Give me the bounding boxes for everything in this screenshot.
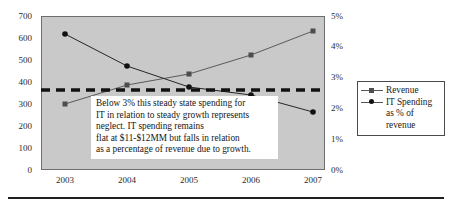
y-axis-right-tick-0pct: 0% [331, 166, 357, 175]
annotation-textbox: Below 3% this steady state spending for … [91, 96, 278, 159]
annotation-line-1: Below 3% this steady state spending for [96, 98, 274, 110]
y-axis-right-tick-1pct: 1% [331, 135, 357, 144]
x-axis-tick-2005: 2005 [169, 176, 209, 185]
y-axis-left-tick-600: 600 [6, 34, 32, 43]
revenue-line [65, 31, 313, 104]
legend-label-revenue: Revenue [386, 85, 419, 97]
annotation-line-2: IT in relation to steady growth represen… [96, 110, 274, 122]
y-axis-left-tick-700: 700 [6, 12, 32, 21]
it-spending-point-2004 [124, 63, 130, 69]
y-axis-right-tick-5pct: 5% [331, 12, 357, 21]
legend-marker-circle-icon [361, 97, 383, 108]
legend-item-it-spending: IT Spending [361, 97, 442, 109]
y-axis-left-tick-100: 100 [6, 144, 32, 153]
legend-label-it-spending-line2: as % of [361, 108, 442, 120]
revenue-point-2004 [125, 83, 130, 88]
it-spending-point-2003 [62, 31, 68, 37]
chart-container: 700 600 500 400 300 200 100 0 Below 3% t… [0, 0, 452, 206]
revenue-point-2003 [63, 102, 68, 107]
chart-legend: Revenue IT Spending as % of revenue [357, 81, 445, 136]
y-axis-right-tick-3pct: 3% [331, 73, 357, 82]
y-axis-left-tick-200: 200 [6, 122, 32, 131]
x-axis-tick-2004: 2004 [107, 176, 147, 185]
y-axis-left-tick-400: 400 [6, 78, 32, 87]
annotation-line-4: flat at $11-$12MM but falls in relation [96, 133, 274, 145]
revenue-point-2007 [311, 29, 316, 34]
it-spending-point-2007 [310, 109, 316, 115]
revenue-point-2006 [249, 53, 254, 58]
legend-item-revenue: Revenue [361, 85, 442, 97]
y-axis-left-tick-300: 300 [6, 100, 32, 109]
x-axis-tick-2007: 2007 [293, 176, 333, 185]
legend-label-it-spending-line3: revenue [361, 120, 442, 132]
revenue-point-2005 [187, 72, 192, 77]
bottom-divider [8, 197, 444, 199]
series-revenue [63, 29, 316, 107]
y-axis-right-tick-2pct: 2% [331, 104, 357, 113]
annotation-line-5: as a percentage of revenue due to growth… [96, 144, 274, 156]
it-spending-point-2005 [186, 84, 192, 90]
legend-marker-square-icon [361, 85, 383, 96]
x-axis-tick-2003: 2003 [45, 176, 85, 185]
y-axis-left-tick-0: 0 [6, 166, 32, 175]
y-axis-left-tick-500: 500 [6, 56, 32, 65]
legend-label-it-spending: IT Spending [386, 97, 432, 109]
x-axis-tick-2006: 2006 [231, 176, 271, 185]
annotation-line-3: neglect. IT spending remains [96, 121, 274, 133]
y-axis-right-tick-4pct: 4% [331, 42, 357, 51]
